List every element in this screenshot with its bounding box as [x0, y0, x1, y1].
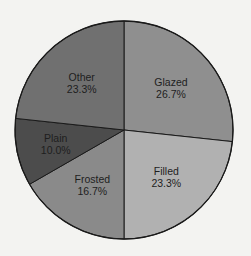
- slice-label-glazed: Glazed26.7%: [154, 76, 187, 100]
- slice-label-filled: Filled23.3%: [151, 165, 181, 189]
- pie-chart: Glazed26.7%Filled23.3%Frosted16.7%Plain1…: [0, 0, 251, 256]
- pie-slices: [15, 21, 233, 239]
- slice-label-plain: Plain10.0%: [41, 132, 71, 156]
- slice-label-other: Other23.3%: [67, 71, 97, 95]
- slice-label-frosted: Frosted16.7%: [74, 173, 110, 197]
